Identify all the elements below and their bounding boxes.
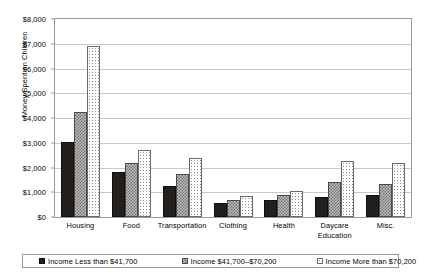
bar-group <box>208 19 259 217</box>
bar[interactable] <box>341 161 354 217</box>
y-axis-tick-mark <box>51 118 54 119</box>
y-axis-tick-labels: $8,000$7,000$6,000$5,000$4,000$3,000$2,0… <box>0 18 50 218</box>
x-axis-tick-label: Transportation <box>157 221 208 240</box>
legend-label: Income More than $70,200 <box>326 257 417 266</box>
bar[interactable] <box>264 200 277 217</box>
y-axis-tick-mark <box>51 192 54 193</box>
bar[interactable] <box>125 163 138 217</box>
x-axis-tick-label: Housing <box>55 221 106 240</box>
bar-groups <box>55 19 411 217</box>
y-axis-tick-label: $0 <box>38 213 46 222</box>
bar[interactable] <box>290 191 303 217</box>
y-axis-tick-label: $6,000 <box>23 64 46 73</box>
x-axis-tick-label-line: Housing <box>67 221 95 230</box>
bar-group <box>309 19 360 217</box>
chart-legend: Income Less than $41,700Income $41,700–$… <box>22 254 399 268</box>
y-axis-tick-label: $3,000 <box>23 138 46 147</box>
bar-group <box>106 19 157 217</box>
bar[interactable] <box>138 150 151 217</box>
legend-item[interactable]: Income Less than $41,700 <box>39 257 138 266</box>
legend-swatch-icon <box>317 258 323 264</box>
bar-group <box>55 19 106 217</box>
bar[interactable] <box>315 197 328 217</box>
x-axis-tick-label-line: Misc. <box>377 221 395 230</box>
y-axis-tick-mark <box>51 217 54 218</box>
legend-label: Income $41,700–$70,200 <box>191 257 277 266</box>
x-axis-tick-label: Misc. <box>360 221 411 240</box>
bar-chart: Money Spent on Children $8,000$7,000$6,0… <box>0 0 421 275</box>
y-axis-tick-label: $4,000 <box>23 114 46 123</box>
y-axis-tick-mark <box>51 142 54 143</box>
bar[interactable] <box>61 142 74 217</box>
bar[interactable] <box>163 186 176 217</box>
bar-group <box>157 19 208 217</box>
bar[interactable] <box>227 200 240 217</box>
y-axis-tick-label: $1,000 <box>23 188 46 197</box>
x-axis-tick-label-line: Daycare <box>321 221 349 230</box>
bar[interactable] <box>189 158 202 217</box>
bar[interactable] <box>277 195 290 217</box>
legend-swatch-icon <box>182 258 188 264</box>
legend-item[interactable]: Income More than $70,200 <box>317 257 417 266</box>
y-axis-tick-label: $7,000 <box>23 39 46 48</box>
bar-group <box>258 19 309 217</box>
x-axis-tick-label-line: Clothing <box>219 221 247 230</box>
x-axis-tick-labels: HousingFoodTransportationClothingHealthD… <box>55 221 411 240</box>
bar[interactable] <box>74 112 87 217</box>
x-axis-tick-label-line: Transportation <box>158 221 207 230</box>
y-axis-tick-mark <box>51 93 54 94</box>
bar[interactable] <box>214 203 227 217</box>
legend-label: Income Less than $41,700 <box>48 257 138 266</box>
legend-swatch-icon <box>39 258 45 264</box>
x-axis-tick-label: Health <box>258 221 309 240</box>
x-axis-tick-label-line: Food <box>123 221 140 230</box>
y-axis-tick-mark <box>51 68 54 69</box>
bar-group <box>360 19 411 217</box>
legend-item[interactable]: Income $41,700–$70,200 <box>182 257 277 266</box>
y-axis-tick-mark <box>51 19 54 20</box>
y-axis-tick-mark <box>51 43 54 44</box>
x-axis-tick-label-line: Education <box>318 231 352 240</box>
y-axis-tick-label: $2,000 <box>23 163 46 172</box>
x-axis-tick-label: DaycareEducation <box>309 221 360 240</box>
bar[interactable] <box>328 182 341 217</box>
bar[interactable] <box>176 174 189 217</box>
x-axis-tick-label: Food <box>106 221 157 240</box>
y-axis-tick-label: $5,000 <box>23 89 46 98</box>
bar[interactable] <box>366 195 379 217</box>
y-axis-tick-mark <box>51 167 54 168</box>
bar[interactable] <box>112 172 125 217</box>
bar[interactable] <box>379 184 392 217</box>
bar[interactable] <box>240 196 253 217</box>
x-axis-tick-label: Clothing <box>208 221 259 240</box>
bar[interactable] <box>392 163 405 217</box>
bar[interactable] <box>87 46 100 217</box>
y-axis-tick-label: $8,000 <box>23 15 46 24</box>
x-axis-tick-label-line: Health <box>273 221 295 230</box>
